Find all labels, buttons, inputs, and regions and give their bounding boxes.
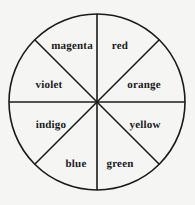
sector-label-green: green (106, 158, 133, 170)
sector-label-magenta: magenta (51, 40, 93, 52)
color-wheel-diagram (0, 0, 195, 205)
sector-label-yellow: yellow (129, 119, 160, 131)
color-wheel-figure: red orange yellow green blue indigo viol… (0, 0, 195, 205)
sector-label-red: red (112, 40, 128, 52)
sector-label-indigo: indigo (36, 119, 67, 131)
sector-label-blue: blue (66, 158, 87, 170)
sector-label-violet: violet (36, 79, 63, 91)
sector-label-orange: orange (127, 79, 161, 91)
